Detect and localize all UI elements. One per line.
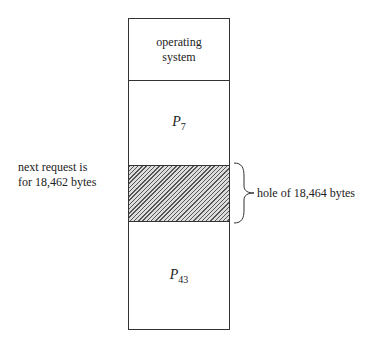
request-note-line1: next request is [18, 160, 96, 175]
process-p7-segment: P7 [129, 81, 229, 165]
request-note: next request is for 18,462 bytes [18, 160, 96, 190]
p43-label: P43 [170, 267, 189, 285]
hole-segment [129, 165, 229, 222]
os-label-line2: system [156, 50, 201, 65]
request-note-line2: for 18,462 bytes [18, 175, 96, 190]
os-segment: operating system [129, 19, 229, 81]
p7-label: P7 [172, 114, 186, 132]
os-label-line1: operating [156, 35, 201, 50]
memory-block: operating system P7 P43 [128, 18, 230, 330]
hole-label: hole of 18,464 bytes [257, 186, 355, 201]
curly-brace-icon [232, 162, 256, 224]
process-p43-segment: P43 [129, 222, 229, 330]
